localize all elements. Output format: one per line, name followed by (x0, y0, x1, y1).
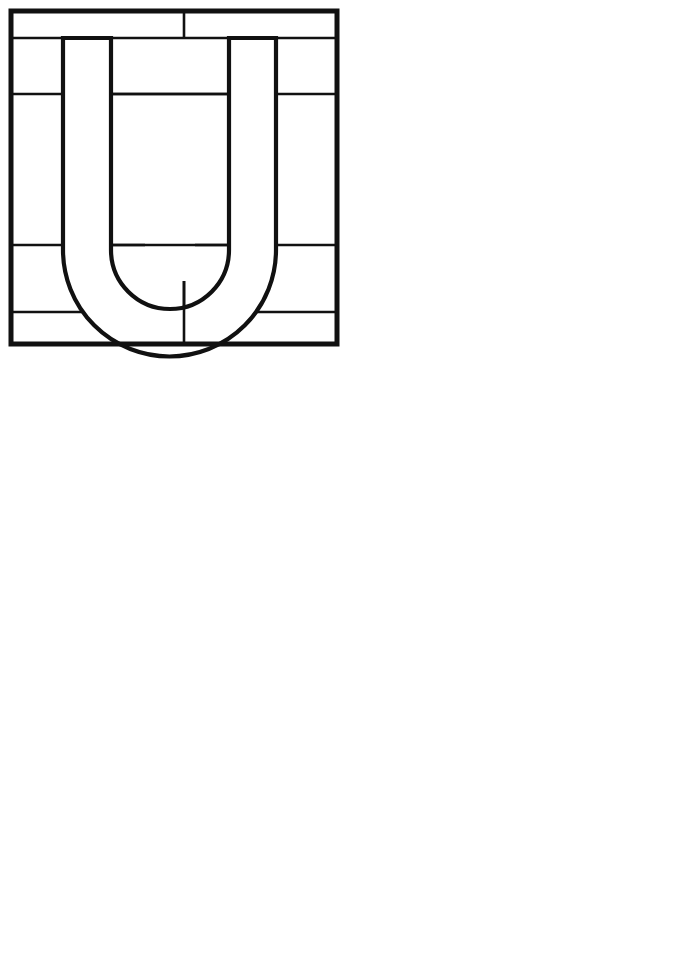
pattern-sheet: Stained Glass Alphabet Pattern Sheet Fou… (0, 0, 691, 979)
panel-u[interactable]: Letter U panel (11, 11, 337, 357)
pattern-canvas: Letter U panel (0, 0, 691, 979)
panel-u-glass (11, 11, 337, 344)
